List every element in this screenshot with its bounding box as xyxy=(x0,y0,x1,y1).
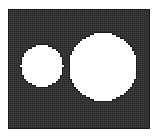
mesh-canvas xyxy=(0,0,158,138)
mesh-figure: Quadrilateral finite element mesh of a r… xyxy=(0,0,158,138)
